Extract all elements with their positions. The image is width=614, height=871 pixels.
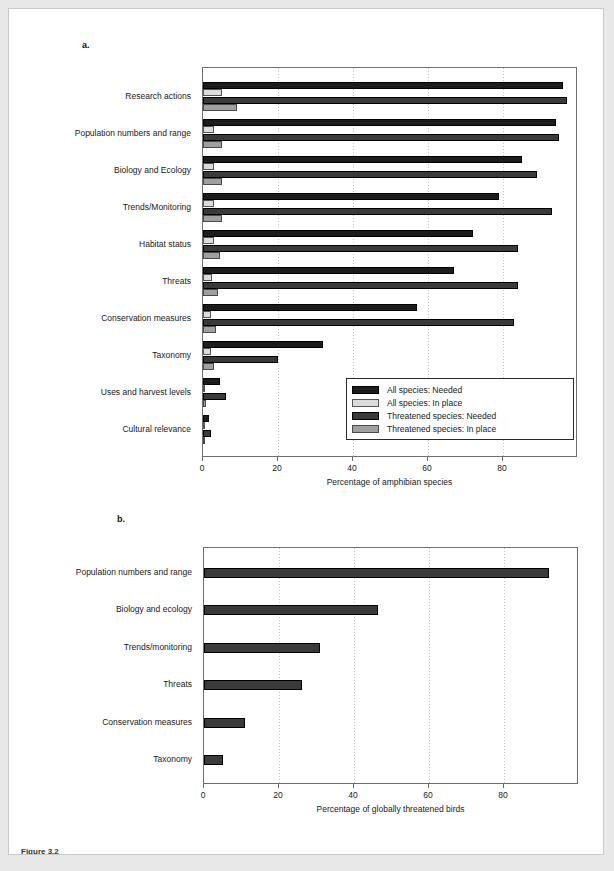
x-axis-tick-label: 20 xyxy=(258,790,298,800)
gridline xyxy=(504,548,505,783)
category-label: Conservation measures xyxy=(9,717,198,727)
x-axis-tick xyxy=(278,784,279,788)
bar xyxy=(204,680,302,690)
figure-page: a. Research actionsPopulation numbers an… xyxy=(8,8,604,855)
x-axis-tick xyxy=(503,784,504,788)
x-axis-tick xyxy=(203,784,204,788)
category-label: Biology and ecology xyxy=(9,604,198,614)
category-label: Threats xyxy=(9,679,198,689)
x-axis-title: Percentage of globally threatened birds xyxy=(203,804,578,814)
bar xyxy=(204,643,320,653)
gridline xyxy=(429,548,430,783)
figure-caption: Figure 3.2 xyxy=(21,847,59,855)
x-axis-tick xyxy=(353,784,354,788)
category-label: Taxonomy xyxy=(9,754,198,764)
bar xyxy=(204,755,223,765)
x-axis-tick-label: 0 xyxy=(183,790,223,800)
bar xyxy=(204,718,245,728)
x-axis-tick-label: 60 xyxy=(408,790,448,800)
bar xyxy=(204,568,549,578)
x-axis-tick-label: 40 xyxy=(333,790,373,800)
category-label: Population numbers and range xyxy=(9,567,198,577)
gridline xyxy=(354,548,355,783)
gridline xyxy=(279,548,280,783)
category-label: Trends/monitoring xyxy=(9,642,198,652)
chart-panel-b: Population numbers and rangeBiology and … xyxy=(9,9,604,855)
x-axis-tick-label: 80 xyxy=(483,790,523,800)
x-axis-tick xyxy=(428,784,429,788)
bar xyxy=(204,605,378,615)
plot-area xyxy=(203,547,578,784)
